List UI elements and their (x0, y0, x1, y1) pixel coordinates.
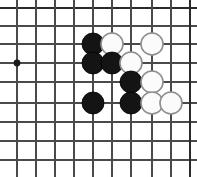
stone-white-2[interactable] (141, 33, 163, 55)
stone-black-6[interactable] (120, 92, 142, 114)
star-point-left-icon (14, 60, 21, 67)
star-points (14, 60, 21, 67)
grid-lines (0, 0, 197, 177)
stone-black-4[interactable] (120, 71, 142, 93)
go-board-figure (0, 0, 197, 177)
goban-grid[interactable] (0, 0, 197, 177)
stone-white-6[interactable] (160, 92, 182, 114)
stone-white-4[interactable] (141, 71, 163, 93)
stones-layer[interactable] (82, 33, 182, 114)
stone-black-5[interactable] (82, 92, 104, 114)
